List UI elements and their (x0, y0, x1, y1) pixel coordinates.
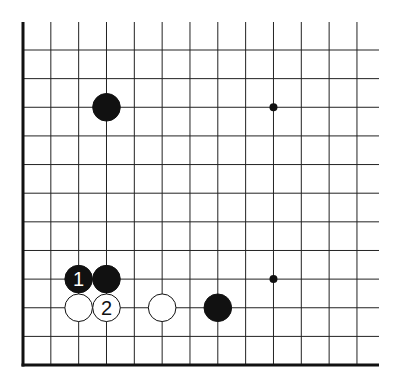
white-stone (148, 294, 176, 322)
star-point (269, 275, 277, 283)
black-stone (204, 294, 232, 322)
go-board: 12 (0, 0, 400, 388)
black-stone (93, 93, 121, 121)
stones: 12 (65, 93, 232, 321)
white-stone: 2 (93, 294, 121, 322)
move-number-label: 2 (101, 297, 112, 319)
white-stone (65, 294, 93, 322)
move-number-label: 1 (73, 268, 84, 290)
star-point (269, 103, 277, 111)
black-stone (93, 265, 121, 293)
black-stone: 1 (65, 265, 93, 293)
